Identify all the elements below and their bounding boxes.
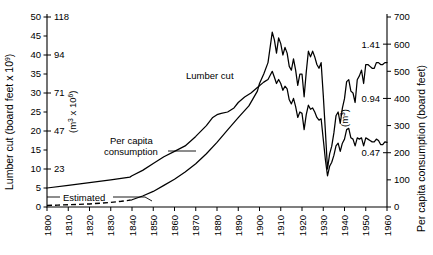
left-axis-tick-label: 0 bbox=[36, 201, 41, 212]
x-axis-tick-label: 1930 bbox=[318, 215, 329, 236]
rsu-c: ) bbox=[339, 109, 350, 112]
left-secondary-tick-label: 94 bbox=[54, 49, 65, 60]
right-axis-tick-label: 400 bbox=[394, 93, 410, 104]
right-axis-tick-label: 100 bbox=[394, 174, 410, 185]
series-group bbox=[47, 32, 387, 205]
x-axis-tick-label: 1850 bbox=[148, 215, 159, 236]
x-axis-tick-label: 1950 bbox=[360, 215, 371, 236]
per-capita-annotation-line1: Per capita bbox=[110, 135, 153, 146]
right-axis-tick-label: 500 bbox=[394, 66, 410, 77]
right-axis-tick-label: 200 bbox=[394, 147, 410, 158]
x-axis-tick-label: 1860 bbox=[169, 215, 180, 236]
left-axis-tick-label: 10 bbox=[30, 163, 41, 174]
right-axis-title: Per capita consumption (board feet) bbox=[415, 65, 427, 232]
right-secondary-unit-label: (m3) bbox=[339, 109, 351, 127]
x-axis-tick-label: 1900 bbox=[254, 215, 265, 236]
x-axis-tick-label: 1920 bbox=[297, 215, 308, 236]
right-axis-tick-label: 300 bbox=[394, 120, 410, 131]
per-capita-annotation-line2: consumption bbox=[104, 146, 158, 157]
right-secondary-tick-label: 1.41 bbox=[362, 39, 381, 50]
left-secondary-tick-label: 118 bbox=[54, 11, 69, 22]
left-axis-tick-label: 15 bbox=[30, 144, 41, 155]
lsu-a: (m bbox=[67, 122, 78, 133]
left-secondary-unit-label: (m3 x 106) bbox=[67, 91, 79, 133]
x-axis-tick-label: 1800 bbox=[42, 215, 53, 236]
left-axis-tick-label: 30 bbox=[30, 87, 41, 98]
x-axis-tick-label: 1910 bbox=[275, 215, 286, 236]
x-axis-tick-label: 1840 bbox=[127, 215, 138, 236]
estimated-annotation: Estimated bbox=[63, 192, 105, 203]
x-axis-tick-label: 1820 bbox=[84, 215, 95, 236]
x-axis-tick-label: 1880 bbox=[212, 215, 223, 236]
x-axis-tick-label: 1830 bbox=[105, 215, 116, 236]
x-axis-tick-label: 1940 bbox=[339, 215, 350, 236]
right-secondary-tick-label: 0.94 bbox=[362, 93, 381, 104]
series-line-per-capita-consumption bbox=[47, 71, 387, 188]
left-secondary-tick-label: 71 bbox=[54, 87, 65, 98]
lumber-cut-annotation: Lumber cut bbox=[186, 70, 234, 81]
x-axis-tick-label: 1870 bbox=[190, 215, 201, 236]
left-axis-title-suffix: ) bbox=[3, 54, 15, 58]
left-secondary-tick-label: 47 bbox=[54, 125, 65, 136]
left-axis-tick-label: 50 bbox=[30, 11, 41, 22]
chart-container: 0510152025303540455023477194118010020030… bbox=[0, 0, 433, 255]
x-axis-tick-label: 1810 bbox=[63, 215, 74, 236]
left-axis-tick-label: 20 bbox=[30, 125, 41, 136]
left-axis-title: Lumber cut (board feet x 109) bbox=[3, 54, 15, 190]
left-axis-tick-label: 35 bbox=[30, 68, 41, 79]
left-axis-tick-label: 25 bbox=[30, 106, 41, 117]
left-and-bottom-axis bbox=[47, 14, 387, 207]
x-axis-tick-label: 1890 bbox=[233, 215, 244, 236]
lsu-e: ) bbox=[67, 91, 78, 94]
lsu-c: x 10 bbox=[67, 98, 78, 119]
right-axis-tick-label: 700 bbox=[394, 11, 410, 22]
rsu-a: (m bbox=[339, 116, 350, 127]
right-secondary-tick-label: 0.47 bbox=[362, 147, 381, 158]
x-axis-tick-label: 1960 bbox=[382, 215, 393, 236]
left-axis-tick-label: 45 bbox=[30, 30, 41, 41]
left-secondary-tick-label: 23 bbox=[54, 163, 65, 174]
right-axis-tick-label: 0 bbox=[394, 201, 399, 212]
right-axis-tick-label: 600 bbox=[394, 39, 410, 50]
left-axis-title-text: Lumber cut (board feet x 10 bbox=[3, 61, 15, 190]
left-axis-tick-label: 40 bbox=[30, 49, 41, 60]
lumber-cut-per-capita-consumption-chart: 0510152025303540455023477194118010020030… bbox=[0, 0, 433, 255]
left-axis-tick-label: 5 bbox=[36, 182, 41, 193]
